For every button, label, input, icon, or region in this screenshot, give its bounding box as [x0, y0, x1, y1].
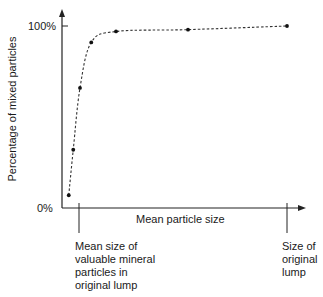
data-curve [69, 26, 287, 195]
mark-label-line: valuable mineral [75, 253, 155, 266]
chart-canvas [0, 0, 323, 297]
data-point-marker [67, 193, 71, 197]
y-tick-label-100: 100% [28, 20, 56, 33]
data-point-marker [114, 30, 118, 34]
mark-label-line: Mean size of [75, 240, 155, 253]
x-axis-arrow-icon [298, 205, 306, 211]
data-markers [67, 24, 289, 197]
x-axis-label: Mean particle size [136, 213, 225, 226]
x-mark-label-mineral: Mean size of valuable mineral particles … [75, 240, 155, 292]
y-tick-label-0: 0% [37, 202, 53, 215]
data-point-marker [186, 28, 190, 32]
y-axis-label: Percentage of mixed particles [6, 34, 18, 184]
y-axis-arrow-icon [59, 9, 65, 17]
mark-label-line: original [282, 253, 317, 266]
mark-label-line: original lump [75, 279, 155, 292]
data-point-marker [71, 148, 75, 152]
data-point-marker [285, 24, 289, 28]
mark-label-line: particles in [75, 266, 155, 279]
data-point-marker [78, 86, 82, 90]
data-point-marker [89, 40, 93, 44]
mark-label-line: Size of [282, 240, 317, 253]
x-mark-label-lump: Size of original lump [282, 240, 317, 279]
mark-label-line: lump [282, 266, 317, 279]
